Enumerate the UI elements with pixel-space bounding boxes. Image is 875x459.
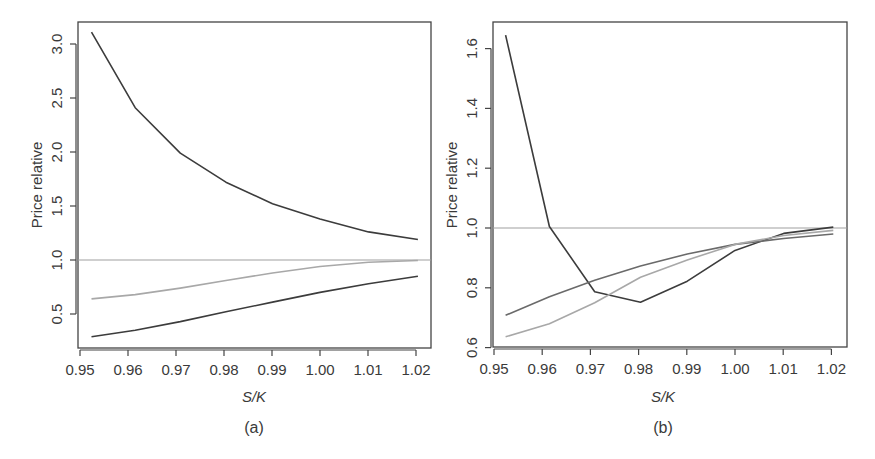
plot-frame-a bbox=[78, 22, 431, 348]
y-tick-label: 2.5 bbox=[48, 88, 65, 109]
y-tick-label: 0.8 bbox=[463, 277, 480, 298]
x-tick-label: 0.99 bbox=[257, 361, 286, 378]
y-tick-label: 3.0 bbox=[48, 34, 65, 55]
x-tick-label: 1.02 bbox=[817, 360, 846, 377]
y-tick-label: 0.6 bbox=[463, 337, 480, 358]
y-axis-title-a: Price relative bbox=[28, 142, 45, 229]
series-line-dark bbox=[506, 35, 834, 302]
x-tick-label: 0.98 bbox=[209, 361, 238, 378]
x-tick-label: 0.95 bbox=[479, 360, 508, 377]
series-line-light-gray bbox=[92, 261, 418, 299]
series-line-dark-upper bbox=[92, 32, 418, 239]
x-tick-label: 0.97 bbox=[576, 360, 605, 377]
x-tick-label: 1.01 bbox=[769, 360, 798, 377]
y-tick-label: 1.2 bbox=[463, 158, 480, 179]
y-axis-b: 0.60.81.01.21.41.6 bbox=[463, 38, 491, 358]
series-line-dark-lower bbox=[92, 276, 418, 337]
x-axis-b: 0.950.960.970.980.991.001.011.02 bbox=[479, 349, 846, 377]
y-tick-label: 0.5 bbox=[48, 304, 65, 325]
x-tick-label: 0.96 bbox=[528, 360, 557, 377]
series-line-light-gray bbox=[506, 230, 834, 336]
y-tick-label: 1.0 bbox=[48, 250, 65, 271]
caption-a: (a) bbox=[244, 419, 264, 436]
x-axis-title-b: S/K bbox=[651, 388, 676, 405]
figure: 0.950.960.970.980.991.001.011.02 0.51.01… bbox=[0, 0, 875, 459]
y-axis-title-b: Price relative bbox=[443, 142, 460, 229]
x-tick-label: 0.95 bbox=[65, 361, 94, 378]
x-tick-label: 1.02 bbox=[401, 361, 430, 378]
x-axis-title-a: S/K bbox=[242, 388, 267, 405]
y-tick-label: 1.6 bbox=[463, 38, 480, 59]
y-tick-label: 1.5 bbox=[48, 196, 65, 217]
caption-b: (b) bbox=[653, 419, 673, 436]
x-tick-label: 1.01 bbox=[353, 361, 382, 378]
x-tick-label: 0.96 bbox=[113, 361, 142, 378]
x-tick-label: 1.00 bbox=[720, 360, 749, 377]
chart-panel-a: 0.950.960.970.980.991.001.011.02 0.51.01… bbox=[28, 22, 431, 436]
x-tick-label: 0.97 bbox=[161, 361, 190, 378]
series-group-a bbox=[92, 32, 418, 337]
x-tick-label: 0.99 bbox=[672, 360, 701, 377]
y-tick-label: 1.4 bbox=[463, 98, 480, 119]
x-axis-a: 0.950.960.970.980.991.001.011.02 bbox=[65, 350, 430, 378]
series-group-b bbox=[506, 35, 834, 337]
series-line-mid-gray bbox=[506, 234, 834, 315]
x-tick-label: 1.00 bbox=[305, 361, 334, 378]
chart-panel-b: 0.950.960.970.980.991.001.011.02 0.60.81… bbox=[443, 22, 847, 436]
y-tick-label: 1.0 bbox=[463, 218, 480, 239]
y-tick-label: 2.0 bbox=[48, 142, 65, 163]
y-axis-a: 0.51.01.52.02.53.0 bbox=[48, 34, 76, 325]
x-tick-label: 0.98 bbox=[624, 360, 653, 377]
